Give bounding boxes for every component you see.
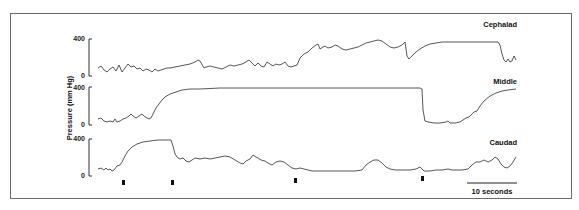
event-marker-2 <box>171 180 174 185</box>
y-axis-caudad <box>89 139 92 176</box>
tick-400-cephalad: 400 <box>73 35 85 42</box>
tick-400-middle: 400 <box>73 84 85 91</box>
panel-caudad: 400 0 Caudad <box>73 135 517 179</box>
pressure-chart: Pressure (mm Hg) 400 0 Cephalad 400 0 Mi… <box>0 0 579 210</box>
y-axis-middle <box>89 87 92 125</box>
y-axis-cephalad <box>89 39 92 76</box>
tick-0-caudad: 0 <box>81 172 85 179</box>
panel-cephalad: 400 0 Cephalad <box>73 20 517 79</box>
trace-caudad <box>98 140 516 171</box>
trace-cephalad <box>98 40 516 72</box>
label-caudad: Caudad <box>489 138 517 147</box>
tick-0-middle: 0 <box>81 121 85 128</box>
label-middle: Middle <box>493 77 517 86</box>
scale-bar-label: 10 seconds <box>472 187 513 196</box>
event-marker-4 <box>421 176 424 181</box>
label-cephalad: Cephalad <box>483 20 517 29</box>
event-marker-1 <box>122 180 125 185</box>
panel-middle: 400 0 Middle <box>73 77 517 128</box>
tick-400-caudad: 400 <box>73 135 85 142</box>
tick-0-cephalad: 0 <box>81 72 85 79</box>
trace-middle <box>98 88 516 123</box>
event-marker-3 <box>294 178 297 183</box>
